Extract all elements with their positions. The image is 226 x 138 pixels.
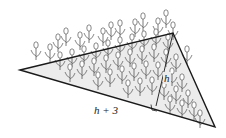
base-label: h + 3 — [94, 104, 118, 116]
triangle-diagram — [0, 0, 226, 138]
height-label: h — [163, 72, 171, 84]
